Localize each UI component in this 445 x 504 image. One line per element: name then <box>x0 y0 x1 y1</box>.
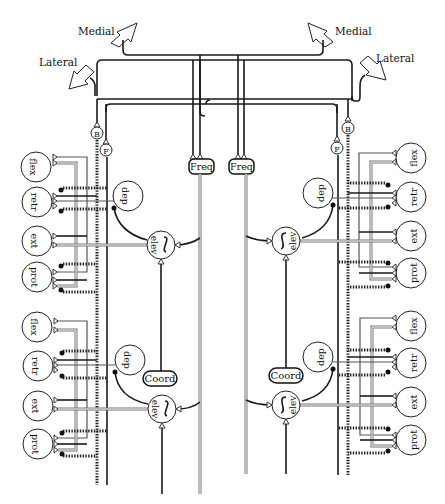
right-command-nodes: B F <box>331 99 354 154</box>
right-f-node-label: F <box>334 145 340 154</box>
svg-text:dep: dep <box>315 184 326 202</box>
freq-right-label: Freq <box>230 161 253 172</box>
freq-left-label: Freq <box>190 161 213 172</box>
left-b-node-label: B <box>94 130 100 139</box>
right-medial-arrow-icon <box>308 23 333 47</box>
module-right-rear: flex retr ext prot dep <box>246 311 426 474</box>
svg-text:elev: elev <box>288 395 298 415</box>
svg-text:dep: dep <box>122 351 133 369</box>
svg-text:retr: retr <box>408 353 419 372</box>
left-command-nodes: B F <box>91 99 112 156</box>
svg-text:flex: flex <box>29 318 40 336</box>
left-lateral-arrow-icon <box>69 65 94 89</box>
svg-text:dep: dep <box>315 348 326 366</box>
svg-text:ext: ext <box>30 399 41 414</box>
svg-text:Coord: Coord <box>271 370 302 381</box>
leg-controller-circuit-diagram: Medial Lateral Medial Lateral B <box>0 0 445 504</box>
svg-text:elev: elev <box>149 236 159 256</box>
svg-text:elev: elev <box>150 400 160 420</box>
top-bus-wiring <box>90 40 365 160</box>
svg-text:retr: retr <box>29 193 40 212</box>
left-f-node-label: F <box>103 147 109 156</box>
left-medial-arrow-icon <box>111 23 137 47</box>
module-left-rear: flex retr ext prot dep <box>22 312 200 494</box>
svg-text:ext: ext <box>408 394 419 409</box>
svg-text:retr: retr <box>408 187 419 206</box>
left-medial-label: Medial <box>78 25 115 37</box>
svg-text:dep: dep <box>120 187 131 205</box>
svg-text:flex: flex <box>28 158 39 176</box>
svg-text:Coord: Coord <box>145 373 176 384</box>
module-right-front: flex retr ext prot dep <box>246 143 426 370</box>
svg-text:elev: elev <box>288 231 298 251</box>
svg-text:ext: ext <box>408 228 419 243</box>
svg-text:ext: ext <box>29 234 40 249</box>
right-b-node-label: B <box>345 125 351 134</box>
right-medial-label: Medial <box>335 25 372 37</box>
svg-text:prot: prot <box>408 430 419 450</box>
svg-text:flex: flex <box>408 317 419 335</box>
svg-text:prot: prot <box>408 263 419 283</box>
right-lateral-label: Lateral <box>376 52 415 64</box>
svg-text:flex: flex <box>408 149 419 167</box>
svg-text:retr: retr <box>30 357 41 376</box>
left-lateral-label: Lateral <box>39 56 78 68</box>
module-left-front: flex retr ext prot dep <box>21 152 200 380</box>
svg-text:prot: prot <box>30 434 41 454</box>
freq-node-left: Freq <box>189 154 214 494</box>
freq-node-right: Freq <box>229 154 254 474</box>
svg-text:prot: prot <box>29 267 40 287</box>
